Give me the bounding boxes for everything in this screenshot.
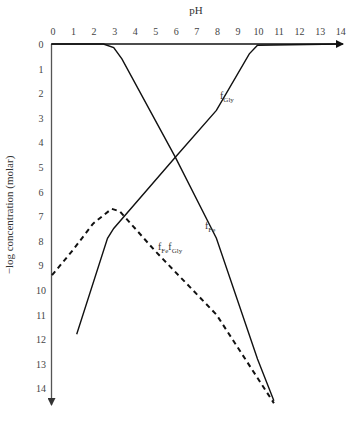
x-tick-label: 5 [153,26,158,37]
x-tick-label: 1 [71,26,76,37]
x-tick-label: 11 [274,26,284,37]
y-tick-label: 8 [39,236,44,247]
x-tick-label: 2 [92,26,97,37]
y-tick-label: 0 [39,39,44,50]
label-f-fe-f-gly: fFefGly [158,241,183,255]
x-tick-label: 8 [215,26,220,37]
y-tick-label: 11 [36,310,46,321]
label-f-fe: fFe [205,220,215,234]
y-tick-label: 3 [39,113,44,124]
y-tick-label: 5 [39,162,44,173]
x-tick-label: 14 [336,26,346,37]
y-tick-label: 7 [39,211,44,222]
series-f-fe-line [52,44,274,401]
y-tick-label: 12 [36,334,46,345]
x-tick-label: 7 [194,26,199,37]
y-tick-label: 14 [36,383,46,394]
y-axis-tick-labels: 01234567891011121314 [36,39,46,394]
x-tick-label: 9 [235,26,240,37]
y-tick-label: 6 [39,187,44,198]
x-axis-title: pH [189,4,203,16]
x-tick-label: 13 [315,26,325,37]
x-tick-label: 10 [254,26,264,37]
x-tick-label: 6 [174,26,179,37]
x-tick-label: 4 [133,26,138,37]
chart-canvas: pH 01234567891011121314 0123456789101112… [0,0,361,425]
series-f-gly-line [77,44,340,334]
y-tick-label: 2 [39,88,44,99]
y-tick-label: 9 [39,260,44,271]
x-tick-label: 12 [295,26,305,37]
y-axis-title: −log concentration (molar) [3,155,16,274]
x-tick-label: 3 [112,26,117,37]
y-tick-label: 10 [36,285,46,296]
y-tick-label: 1 [39,64,44,75]
y-tick-label: 4 [39,137,44,148]
x-tick-label: 0 [51,26,56,37]
y-tick-label: 13 [36,359,46,370]
x-axis-tick-labels: 01234567891011121314 [51,26,346,37]
